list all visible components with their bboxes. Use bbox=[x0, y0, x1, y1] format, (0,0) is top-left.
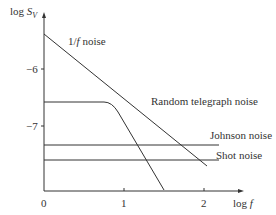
x-axis-arrow bbox=[238, 189, 244, 193]
shot-label: Shot noise bbox=[216, 150, 262, 161]
y-tick-7: −7 bbox=[26, 121, 38, 132]
noise-spectrum-chart: log SV −6 −7 0 1 2 log f 1/f noise Rando… bbox=[0, 0, 276, 215]
rtn-line bbox=[44, 102, 164, 190]
x-axis-label: log f bbox=[233, 198, 253, 209]
one-over-f-label: 1/f noise bbox=[68, 36, 106, 47]
x-tick-0: 0 bbox=[41, 198, 47, 209]
chart-plot bbox=[0, 0, 276, 215]
johnson-label: Johnson noise bbox=[210, 130, 272, 141]
rtn-label: Random telegraph noise bbox=[151, 96, 258, 107]
y-axis-label: log SV bbox=[10, 6, 37, 20]
x-tick-1: 1 bbox=[121, 198, 127, 209]
y-axis-arrow bbox=[42, 12, 46, 18]
x-tick-2: 2 bbox=[201, 198, 207, 209]
y-tick-6: −6 bbox=[26, 64, 38, 75]
